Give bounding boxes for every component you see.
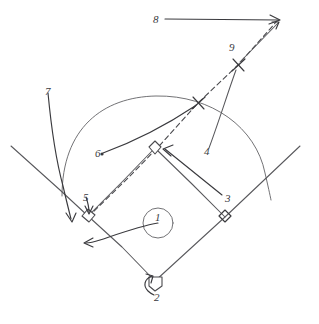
label-9: 9 [229,42,235,53]
field-drawing [0,0,319,324]
right-foul-line [155,146,300,281]
label-3: 3 [225,193,231,204]
line-label-9 [240,23,278,62]
line-label-3 [165,149,222,195]
label-5: 5 [83,192,89,203]
curve-label-6 [103,106,195,153]
left-foul-line [11,146,155,281]
label-6: 6 [95,148,101,159]
x-mark-upper [232,59,245,71]
line-label-4 [209,70,236,148]
infield-basepath-third-to-second [88,151,152,216]
label-2: 2 [154,292,160,303]
label-8: 8 [153,14,159,25]
baseball-diagram-canvas: 1 2 3 4 5 6 7 8 9 [0,0,319,324]
infield-basepath-second-to-first [158,151,225,217]
label-4: 4 [204,146,210,157]
line-label-8 [165,19,279,20]
home-plate [149,277,162,291]
label-1: 1 [155,212,161,223]
label-7: 7 [45,86,51,97]
